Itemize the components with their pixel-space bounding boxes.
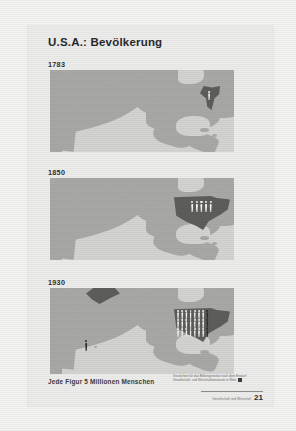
printed-page: U.S.A.: Bevölkerung 1783	[28, 26, 273, 406]
population-figure	[195, 201, 198, 212]
pictogram-row	[176, 310, 210, 319]
population-figure	[202, 328, 205, 337]
footer-source: Gesellschaft und Wirtschaft	[212, 397, 251, 402]
pictogram-row	[176, 328, 210, 337]
population-figure	[185, 319, 188, 328]
population-figure	[206, 328, 209, 337]
population-figure	[185, 328, 188, 337]
year-label-1930: 1930	[48, 278, 65, 287]
population-figure	[189, 310, 192, 319]
pictogram-row	[190, 201, 213, 212]
landmass-southwest-edge	[50, 114, 62, 152]
population-figure	[202, 319, 205, 328]
population-figure	[198, 319, 201, 328]
population-figure	[208, 91, 211, 100]
panel-1930: 1930	[28, 274, 273, 386]
gulf-of-mexico	[176, 116, 210, 136]
island-hispaniola	[212, 242, 217, 245]
population-figure	[198, 310, 201, 319]
population-figure	[209, 201, 212, 212]
year-label-1783: 1783	[48, 60, 65, 69]
population-figure	[193, 310, 196, 319]
screenshot-root: U.S.A.: Bevölkerung 1783	[0, 0, 296, 431]
panel-1783: 1783	[28, 56, 273, 164]
pictogram-group-1930	[176, 310, 210, 337]
population-figure	[193, 319, 196, 328]
page-number: 21	[254, 393, 263, 402]
population-figure	[198, 328, 201, 337]
pictogram-group-1850	[190, 201, 213, 212]
credit-line-1: Gezeichnet für das Bildungsinstitut nach…	[173, 374, 246, 378]
page-title: U.S.A.: Bevölkerung	[48, 36, 162, 48]
population-figure	[204, 201, 207, 212]
island-cuba	[200, 128, 209, 132]
population-figure	[85, 340, 88, 351]
island-hawaii	[94, 346, 97, 348]
map-1850	[50, 178, 234, 260]
landmass-southwest-edge	[50, 222, 62, 260]
population-figure	[177, 310, 180, 319]
pictogram-row	[176, 319, 210, 328]
population-figure	[193, 328, 196, 337]
population-figure	[189, 328, 192, 337]
landmass-greenland	[214, 70, 234, 82]
landmass-southwest-edge	[50, 332, 62, 374]
map-1783	[50, 70, 234, 152]
population-figure	[206, 310, 209, 319]
island-cuba	[200, 350, 209, 354]
island-hispaniola	[212, 134, 217, 137]
pictogram-group-hawaii-1930	[84, 340, 89, 351]
population-figure	[177, 319, 180, 328]
population-figure	[200, 201, 203, 212]
isotype-mark-icon	[238, 378, 242, 382]
credit-line-2: Gesellschaft- und Wirtschaftsmuseum in W…	[173, 378, 236, 382]
population-figure	[185, 310, 188, 319]
landmass-greenland	[214, 178, 234, 190]
population-figure	[181, 310, 184, 319]
landmass-greenland	[214, 288, 234, 300]
year-label-1850: 1850	[48, 168, 65, 177]
map-1930	[50, 288, 234, 374]
population-figure	[206, 319, 209, 328]
island-cuba	[200, 236, 209, 240]
population-figure	[189, 319, 192, 328]
page-footer: Gesellschaft und Wirtschaft 21	[212, 393, 263, 402]
panel-1850: 1850	[28, 164, 273, 274]
population-figure	[177, 328, 180, 337]
pictogram-group-1783	[207, 91, 211, 100]
footer-rule	[201, 391, 263, 392]
island-hispaniola	[212, 356, 217, 359]
population-figure	[181, 319, 184, 328]
pictogram-row	[207, 91, 211, 100]
population-figure	[181, 328, 184, 337]
credit-block: Gezeichnet für das Bildungsinstitut nach…	[173, 374, 259, 383]
population-figure	[191, 201, 194, 212]
population-figure	[202, 310, 205, 319]
pictogram-row	[84, 340, 89, 351]
legend-caption: Jede Figur 5 Millionen Menschen	[48, 378, 154, 385]
